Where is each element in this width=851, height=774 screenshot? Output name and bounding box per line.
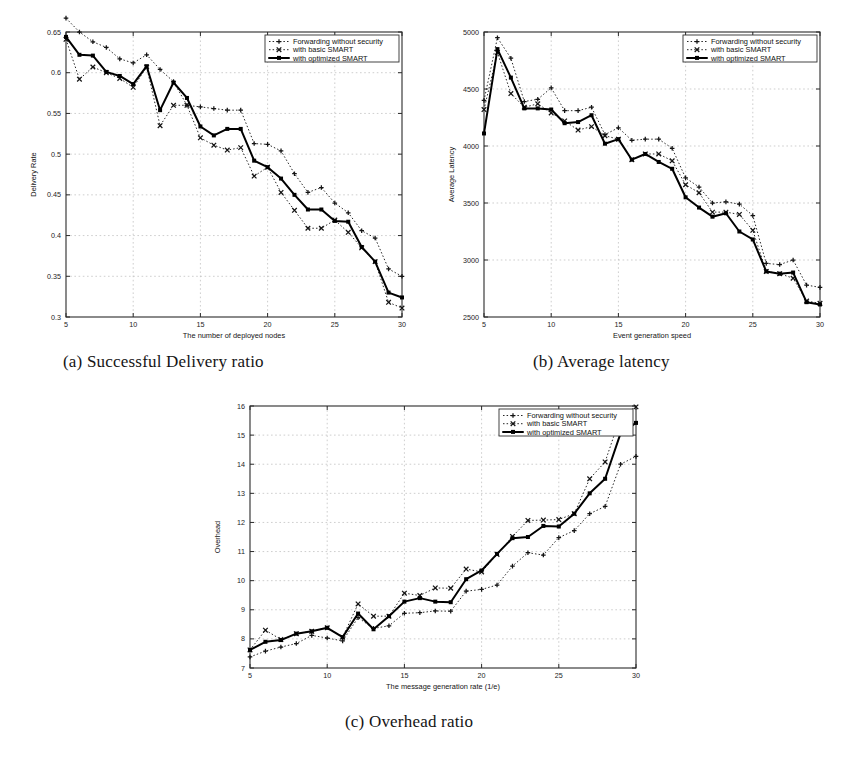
y-tick-label: 0.35: [47, 272, 61, 281]
y-tick-label: 0.55: [47, 109, 61, 118]
data-marker-plus: [319, 185, 324, 190]
x-tick-label: 20: [478, 671, 486, 680]
x-tick-label: 5: [482, 320, 486, 329]
data-marker-x: [263, 628, 268, 633]
x-tick-label: 15: [614, 320, 622, 329]
y-tick-label: 2500: [463, 313, 479, 322]
y-tick-label: 0.6: [51, 68, 61, 77]
x-tick-label: 10: [547, 320, 555, 329]
y-tick-label: 0.3: [51, 313, 61, 322]
data-marker-square: [172, 80, 176, 84]
subcaption-c: (c) Overhead ratio: [345, 712, 473, 732]
chart-panel-overhead: 7891011121314151651015202530The message …: [196, 392, 656, 704]
data-marker-square: [616, 137, 620, 141]
x-tick-label: 25: [749, 320, 757, 329]
data-marker-square: [603, 477, 607, 481]
data-marker-x: [77, 77, 82, 82]
data-marker-square: [670, 167, 674, 171]
x-axis-title: The number of deployed nodes: [183, 331, 286, 340]
data-marker-x: [212, 143, 217, 148]
data-marker-square: [751, 237, 755, 241]
data-marker-plus: [373, 236, 378, 241]
data-marker-x: [670, 159, 675, 164]
y-tick-label: 16: [237, 402, 245, 411]
data-marker-plus: [387, 623, 392, 628]
data-marker-square: [695, 56, 699, 60]
data-marker-square: [724, 211, 728, 215]
data-marker-plus: [263, 649, 268, 654]
data-marker-square: [563, 121, 567, 125]
subcaption-b: (b) Average latency: [533, 352, 670, 372]
data-marker-square: [482, 131, 486, 135]
data-marker-square: [643, 152, 647, 156]
data-marker-square: [495, 552, 499, 556]
data-marker-x: [509, 91, 514, 96]
y-tick-label: 15: [237, 431, 245, 440]
data-marker-plus: [433, 609, 438, 614]
data-marker-square: [325, 626, 329, 630]
series-3: [248, 421, 638, 652]
data-marker-square: [372, 627, 376, 631]
data-marker-square: [279, 177, 283, 181]
data-marker-x: [697, 190, 702, 195]
data-marker-square: [449, 600, 453, 604]
overhead-chart: 7891011121314151651015202530The message …: [196, 392, 656, 704]
data-marker-square: [576, 120, 580, 124]
data-marker-plus: [418, 610, 423, 615]
data-marker-square: [510, 536, 514, 540]
y-tick-label: 4500: [463, 85, 479, 94]
data-marker-x: [238, 145, 243, 150]
data-marker-plus: [777, 262, 782, 267]
y-tick-label: 9: [241, 605, 245, 614]
data-marker-plus: [541, 553, 546, 558]
data-marker-plus: [634, 454, 639, 459]
data-marker-plus: [562, 108, 567, 113]
x-tick-label: 5: [64, 320, 68, 329]
legend-label: with optimized SMART: [710, 54, 786, 63]
data-marker-plus: [589, 105, 594, 110]
data-marker-square: [684, 195, 688, 199]
data-marker-plus: [279, 645, 284, 650]
data-marker-plus: [359, 228, 364, 233]
data-marker-plus: [495, 35, 500, 40]
x-tick-label: 15: [196, 320, 204, 329]
data-marker-square: [541, 524, 545, 528]
data-marker-square: [292, 193, 296, 197]
data-marker-square: [710, 215, 714, 219]
data-marker-plus: [386, 267, 391, 272]
data-marker-square: [522, 106, 526, 110]
plot-axes: [484, 32, 820, 317]
data-marker-square: [433, 600, 437, 604]
data-marker-square: [356, 612, 360, 616]
x-axis-title: Event generation speed: [613, 331, 691, 340]
data-marker-plus: [131, 61, 136, 66]
y-tick-label: 0.4: [51, 231, 61, 240]
data-marker-square: [252, 159, 256, 163]
data-marker-square: [634, 421, 638, 425]
x-tick-label: 10: [323, 671, 331, 680]
series-2: [482, 50, 823, 305]
data-marker-square: [310, 629, 314, 633]
data-marker-x: [710, 210, 715, 215]
data-marker-square: [198, 124, 202, 128]
data-marker-x: [448, 586, 453, 591]
data-marker-square: [277, 56, 281, 60]
data-marker-plus: [64, 16, 69, 21]
data-marker-plus: [212, 106, 217, 111]
data-marker-plus: [697, 185, 702, 190]
data-marker-square: [248, 648, 252, 652]
data-marker-plus: [252, 141, 257, 146]
data-marker-square: [373, 260, 377, 264]
data-marker-square: [778, 272, 782, 276]
data-marker-square: [77, 53, 81, 57]
data-marker-square: [131, 82, 135, 86]
data-marker-square: [341, 635, 345, 639]
y-tick-label: 3000: [463, 256, 479, 265]
data-marker-plus: [144, 53, 149, 58]
data-marker-plus: [670, 146, 675, 151]
data-marker-x: [557, 517, 562, 522]
data-marker-x: [198, 136, 203, 141]
data-marker-square: [697, 206, 701, 210]
data-marker-plus: [630, 138, 635, 143]
data-marker-square: [590, 113, 594, 117]
